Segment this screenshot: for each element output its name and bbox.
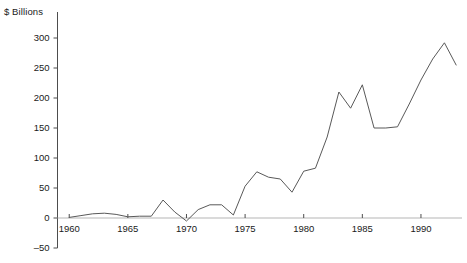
y-axis-tick-label: 0 — [10, 212, 50, 223]
y-axis-tick-label: 250 — [10, 62, 50, 73]
y-axis-tick-label: 300 — [10, 32, 50, 43]
y-axis-tick-label: –50 — [10, 242, 50, 253]
x-axis-tick-label: 1965 — [108, 223, 148, 234]
data-line — [69, 43, 456, 221]
x-axis-tick-label: 1970 — [166, 223, 206, 234]
x-axis-tick-label: 1960 — [49, 223, 89, 234]
x-axis-tick-label: 1975 — [225, 223, 265, 234]
x-axis-tick-label: 1985 — [342, 223, 382, 234]
y-axis-tick-label: 200 — [10, 92, 50, 103]
line-chart: $ Billions 300250200150100500–50 1960196… — [0, 0, 467, 263]
y-axis-tick-label: 100 — [10, 152, 50, 163]
y-axis-tick-label: 150 — [10, 122, 50, 133]
x-axis-tick-label: 1980 — [284, 223, 324, 234]
x-axis-tick-label: 1990 — [401, 223, 441, 234]
y-tick-marks — [54, 38, 58, 248]
y-axis-tick-label: 50 — [10, 182, 50, 193]
data-line-group — [69, 43, 456, 221]
